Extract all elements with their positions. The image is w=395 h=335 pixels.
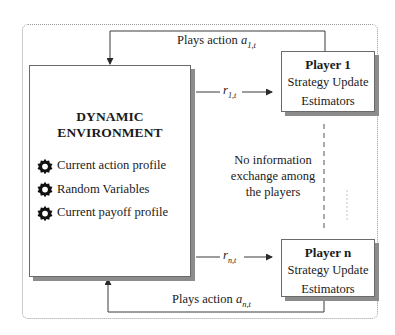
top-action-label: Plays action a1,t — [177, 33, 256, 50]
environment-item-label: Current payoff profile — [57, 205, 168, 220]
player-title: Player n — [282, 244, 374, 261]
gear-icon — [37, 181, 53, 197]
player-title: Player 1 — [282, 56, 374, 73]
player-1-box: Player 1 Strategy Update Estimators — [281, 51, 375, 112]
bottom-action-label: Plays action an,t — [172, 292, 251, 309]
environment-item: Current action profile — [37, 154, 168, 178]
environment-list: Current action profile Random Variables … — [37, 154, 168, 225]
player-line-estimators: Estimators — [282, 280, 374, 299]
no-information-note: No information exchange among the player… — [218, 152, 328, 200]
player-line-strategy: Strategy Update — [282, 73, 374, 92]
environment-box: DYNAMIC ENVIRONMENT Current action profi… — [29, 65, 191, 277]
environment-item-label: Random Variables — [57, 182, 149, 197]
reward-n-label: rn,t — [223, 248, 236, 265]
gear-icon — [37, 205, 53, 221]
reward-1-label: r1,t — [223, 83, 236, 100]
environment-item: Current payoff profile — [37, 201, 168, 225]
gear-icon — [37, 158, 53, 174]
environment-item-label: Current action profile — [57, 158, 166, 173]
player-line-strategy: Strategy Update — [282, 261, 374, 280]
environment-title: DYNAMIC ENVIRONMENT — [30, 109, 190, 141]
player-n-box: Player n Strategy Update Estimators — [281, 239, 375, 297]
environment-item: Random Variables — [37, 178, 168, 202]
player-line-estimators: Estimators — [282, 92, 374, 111]
